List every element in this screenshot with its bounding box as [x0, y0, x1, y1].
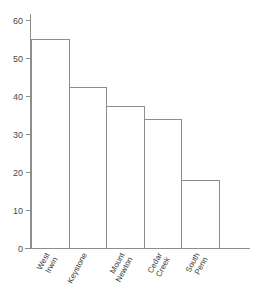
x-axis-category-labels: WestIrwinKeystoneMountNewtonCedarCreekSo… — [35, 250, 209, 285]
x-tick-label-3: CedarCreek — [146, 250, 173, 279]
bar-west-irwin — [32, 40, 70, 249]
y-tick-label-10: 10 — [13, 206, 23, 216]
x-tick-label-2: MountNewton — [106, 251, 135, 284]
y-tick-label-40: 40 — [13, 92, 23, 102]
y-tick-label-0: 0 — [18, 244, 23, 254]
bar-chart: 0 10 20 30 40 50 60 WestIrwinKeystoneMou… — [0, 0, 260, 305]
y-tick-label-50: 50 — [13, 54, 23, 64]
bar-mount-newton — [107, 106, 145, 249]
y-tick-label-30: 30 — [13, 130, 23, 140]
y-tick-label-60: 60 — [13, 16, 23, 26]
bar-cedar-creek — [144, 119, 182, 248]
x-tick-label-4: SouthPenn — [184, 251, 210, 278]
chart-plot-area: 0 10 20 30 40 50 60 WestIrwinKeystoneMou… — [0, 0, 260, 305]
x-tick-label-0: WestIrwin — [35, 251, 60, 276]
y-tick-label-20: 20 — [13, 168, 23, 178]
x-tick-label-1-line-0: Keystone — [65, 251, 89, 285]
bar-south-penn — [182, 180, 220, 248]
x-tick-label-1: Keystone — [65, 251, 89, 285]
bar-series — [32, 40, 220, 249]
y-axis-ticks: 0 10 20 30 40 50 60 — [13, 16, 31, 254]
bar-keystone — [69, 87, 107, 249]
